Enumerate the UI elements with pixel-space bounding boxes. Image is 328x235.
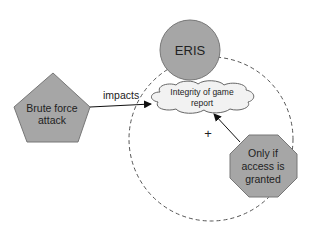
condition-edge[interactable] [214, 114, 240, 142]
access-label-line3: granted [245, 173, 281, 185]
impacts-edge[interactable]: impacts [90, 89, 151, 107]
brute-force-attack-node[interactable]: Brute force attack [14, 73, 90, 142]
brute-force-label-line1: Brute force [26, 102, 78, 114]
impacts-label: impacts [103, 89, 139, 101]
integrity-label-line1: Integrity of game [170, 87, 234, 97]
access-granted-node[interactable]: Only if access is granted [230, 135, 297, 197]
plus-marker: + [204, 126, 212, 141]
integrity-of-game-report-node[interactable]: Integrity of game report [151, 81, 253, 114]
brute-force-label-line2: attack [38, 114, 67, 126]
eris-node[interactable]: ERIS [160, 20, 220, 80]
diagram-canvas: ERIS Brute force attack impacts Integrit… [0, 0, 328, 235]
integrity-label-line2: report [191, 98, 214, 108]
eris-label: ERIS [175, 43, 206, 58]
access-label-line1: Only if [248, 147, 278, 159]
access-label-line2: access is [241, 160, 284, 172]
